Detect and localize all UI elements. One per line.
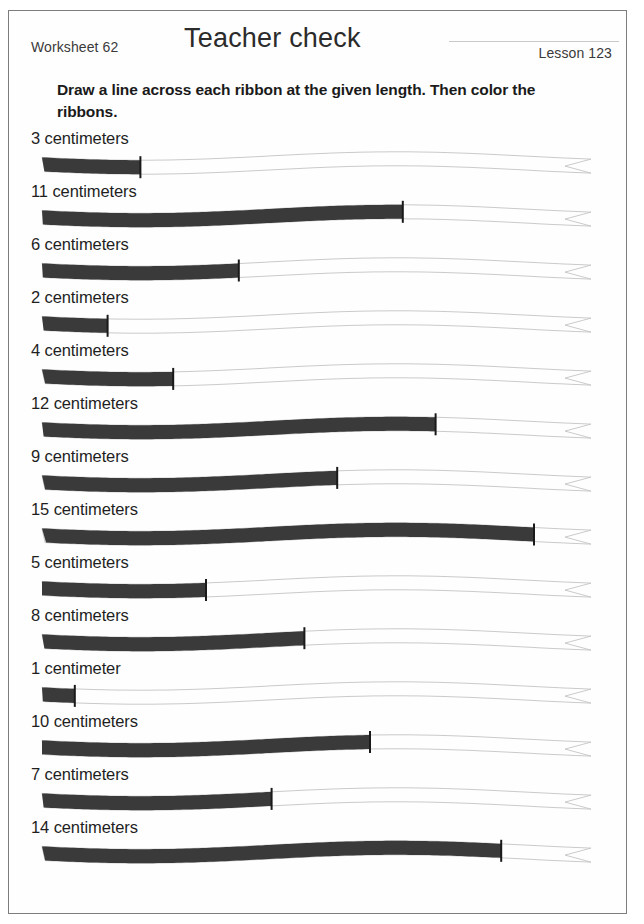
ribbon-row: 10 centimeters bbox=[9, 712, 626, 765]
ribbon-graphic[interactable] bbox=[31, 680, 617, 710]
page-header: Worksheet 62 Teacher check Lesson 123 bbox=[9, 11, 626, 73]
ribbon-colored-section bbox=[42, 316, 108, 332]
ribbon-graphic[interactable] bbox=[31, 362, 617, 392]
ribbon-graphic[interactable] bbox=[31, 415, 617, 445]
ribbon-graphic[interactable] bbox=[31, 627, 617, 657]
ribbon-colored-section bbox=[42, 631, 304, 651]
ribbon-colored-section bbox=[42, 471, 337, 492]
ribbon-row: 15 centimeters bbox=[9, 500, 626, 553]
ribbon-length-label: 15 centimeters bbox=[31, 500, 138, 519]
ribbon-length-label: 11 centimeters bbox=[31, 182, 137, 201]
ribbon-graphic[interactable] bbox=[31, 574, 617, 604]
ribbon-length-label: 3 centimeters bbox=[31, 129, 129, 148]
ribbon-length-label: 6 centimeters bbox=[31, 235, 129, 254]
ribbon-row: 4 centimeters bbox=[9, 341, 626, 394]
ribbon-row: 12 centimeters bbox=[9, 394, 626, 447]
ribbon-colored-section bbox=[42, 417, 436, 439]
ribbon-graphic[interactable] bbox=[31, 468, 617, 498]
ribbon-graphic[interactable] bbox=[31, 733, 617, 763]
ribbon-length-label: 1 centimeter bbox=[31, 659, 121, 678]
ribbon-row: 2 centimeters bbox=[9, 288, 626, 341]
ribbon-row: 14 centimeters bbox=[9, 818, 626, 871]
worksheet-page: Worksheet 62 Teacher check Lesson 123 Dr… bbox=[8, 10, 627, 914]
ribbon-length-label: 14 centimeters bbox=[31, 818, 138, 837]
worksheet-number-label: Worksheet 62 bbox=[31, 39, 118, 55]
ribbon-row: 11 centimeters bbox=[9, 182, 626, 235]
ribbon-graphic[interactable] bbox=[31, 786, 617, 816]
page-title: Teacher check bbox=[184, 23, 361, 54]
ribbon-graphic[interactable] bbox=[31, 256, 617, 286]
ribbon-length-label: 2 centimeters bbox=[31, 288, 129, 307]
ribbon-colored-section bbox=[42, 687, 75, 703]
ribbon-graphic[interactable] bbox=[31, 839, 617, 869]
ribbon-graphic[interactable] bbox=[31, 150, 617, 180]
ribbon-graphic[interactable] bbox=[31, 309, 617, 339]
ribbon-colored-section bbox=[42, 735, 370, 757]
teacher-signature-line bbox=[449, 41, 619, 42]
ribbon-row: 5 centimeters bbox=[9, 553, 626, 606]
ribbon-length-label: 7 centimeters bbox=[31, 765, 129, 784]
ribbon-colored-section bbox=[42, 205, 403, 227]
ribbon-graphic[interactable] bbox=[31, 203, 617, 233]
ribbon-row: 8 centimeters bbox=[9, 606, 626, 659]
ribbon-outline bbox=[42, 311, 591, 333]
ribbon-colored-section bbox=[42, 841, 501, 863]
ribbon-rows-list: 3 centimeters11 centimeters6 centimeters… bbox=[9, 129, 626, 871]
ribbon-row: 3 centimeters bbox=[9, 129, 626, 182]
ribbon-length-label: 9 centimeters bbox=[31, 447, 129, 466]
ribbon-graphic[interactable] bbox=[31, 521, 617, 551]
ribbon-outline bbox=[42, 682, 591, 704]
ribbon-colored-section bbox=[42, 523, 534, 545]
ribbon-length-label: 4 centimeters bbox=[31, 341, 129, 360]
ribbon-row: 9 centimeters bbox=[9, 447, 626, 500]
ribbon-length-label: 8 centimeters bbox=[31, 606, 129, 625]
ribbon-length-label: 5 centimeters bbox=[31, 553, 129, 572]
ribbon-row: 6 centimeters bbox=[9, 235, 626, 288]
ribbon-length-label: 12 centimeters bbox=[31, 394, 138, 413]
instructions-text: Draw a line across each ribbon at the gi… bbox=[57, 79, 577, 123]
lesson-number-label: Lesson 123 bbox=[539, 45, 612, 61]
ribbon-row: 1 centimeter bbox=[9, 659, 626, 712]
ribbon-row: 7 centimeters bbox=[9, 765, 626, 818]
ribbon-length-label: 10 centimeters bbox=[31, 712, 138, 731]
